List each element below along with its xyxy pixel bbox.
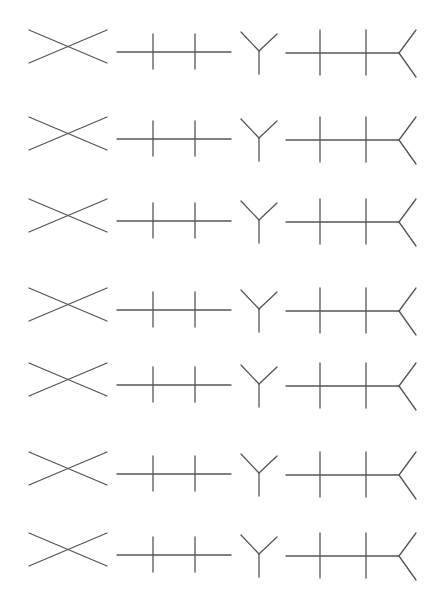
ticked-line-shape <box>117 203 231 238</box>
x-cross-shape <box>29 30 107 63</box>
x-cross-shape <box>29 288 107 321</box>
ticked-line-shape <box>117 367 231 402</box>
figure-row-1 <box>29 30 416 77</box>
ticked-line-with-fork-shape <box>286 117 416 164</box>
x-cross-shape <box>29 117 107 150</box>
ticked-line-with-fork-shape <box>286 363 416 410</box>
ticked-line-with-fork-shape <box>286 533 416 580</box>
ticked-line-shape <box>117 34 231 69</box>
ticked-line-shape <box>117 456 231 491</box>
ticked-line-shape <box>117 121 231 156</box>
y-fork-shape <box>241 535 277 577</box>
ticked-line-with-fork-shape <box>286 288 416 335</box>
figure-canvas <box>0 0 446 604</box>
y-fork-shape <box>241 454 277 496</box>
ticked-line-with-fork-shape <box>286 452 416 499</box>
ticked-line-with-fork-shape <box>286 199 416 246</box>
x-cross-shape <box>29 452 107 485</box>
figure-row-4 <box>29 288 416 335</box>
line-figure-diagram <box>0 0 446 604</box>
ticked-line-shape <box>117 292 231 327</box>
y-fork-shape <box>241 365 277 407</box>
y-fork-shape <box>241 119 277 161</box>
figure-row-6 <box>29 452 416 499</box>
y-fork-shape <box>241 290 277 332</box>
figure-row-5 <box>29 363 416 410</box>
x-cross-shape <box>29 363 107 396</box>
y-fork-shape <box>241 201 277 243</box>
x-cross-shape <box>29 533 107 566</box>
figure-row-2 <box>29 117 416 164</box>
figure-row-7 <box>29 533 416 580</box>
x-cross-shape <box>29 199 107 232</box>
figure-row-3 <box>29 199 416 246</box>
ticked-line-shape <box>117 537 231 572</box>
y-fork-shape <box>241 32 277 74</box>
ticked-line-with-fork-shape <box>286 30 416 77</box>
